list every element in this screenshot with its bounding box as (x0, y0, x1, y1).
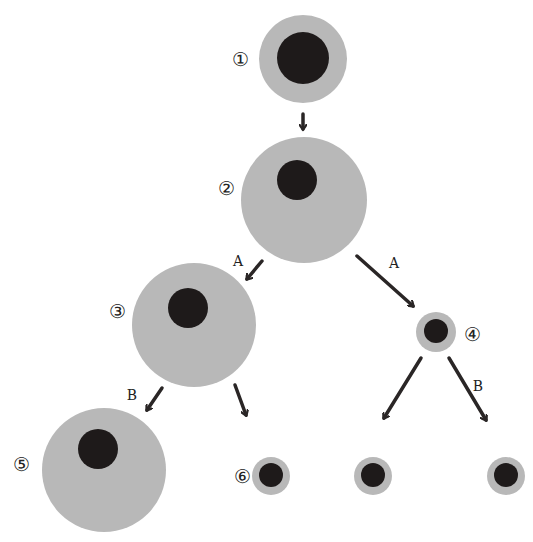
cell-label: ④ (464, 323, 481, 345)
cell-label: ⑥ (234, 465, 251, 487)
arrow-3-to-5: B (127, 387, 162, 410)
cells-layer: ①②③④⑤⑥ (13, 15, 526, 532)
nucleus (361, 463, 385, 487)
arrow-icon (247, 261, 262, 279)
arrow-label: A (388, 255, 400, 271)
arrow-4-to-8: B (449, 358, 486, 420)
cell-2: ② (218, 137, 368, 263)
cytoplasm (42, 408, 166, 532)
cell-4: ④ (416, 312, 481, 352)
nucleus (424, 319, 448, 343)
arrow-icon (147, 388, 162, 410)
arrow-icon (357, 256, 413, 306)
cell-8 (487, 457, 525, 495)
arrow-3-to-6 (235, 385, 246, 415)
arrow-icon (384, 358, 421, 418)
cell-label: ① (232, 48, 249, 70)
cell-label: ③ (109, 300, 126, 322)
cell-label: ⑤ (13, 453, 30, 475)
arrow-4-to-7 (384, 358, 421, 418)
nucleus (494, 463, 518, 487)
arrow-label: A (232, 253, 244, 269)
arrow-label: B (473, 378, 483, 394)
arrow-label: B (127, 387, 137, 403)
nucleus (277, 160, 317, 200)
cell-division-diagram: AABB ①②③④⑤⑥ (0, 0, 533, 542)
cell-label: ② (218, 177, 235, 199)
cell-6: ⑥ (234, 457, 291, 495)
cell-7 (354, 457, 392, 495)
nucleus (168, 288, 208, 328)
cell-5: ⑤ (13, 408, 167, 532)
arrow-icon (235, 385, 246, 415)
cytoplasm (241, 137, 367, 263)
cell-1: ① (232, 15, 348, 103)
nucleus (277, 32, 329, 84)
nucleus (259, 463, 283, 487)
arrow-2-to-3: A (232, 253, 262, 279)
arrow-2-to-4: A (357, 255, 413, 306)
nucleus (78, 429, 118, 469)
cell-3: ③ (109, 263, 257, 387)
